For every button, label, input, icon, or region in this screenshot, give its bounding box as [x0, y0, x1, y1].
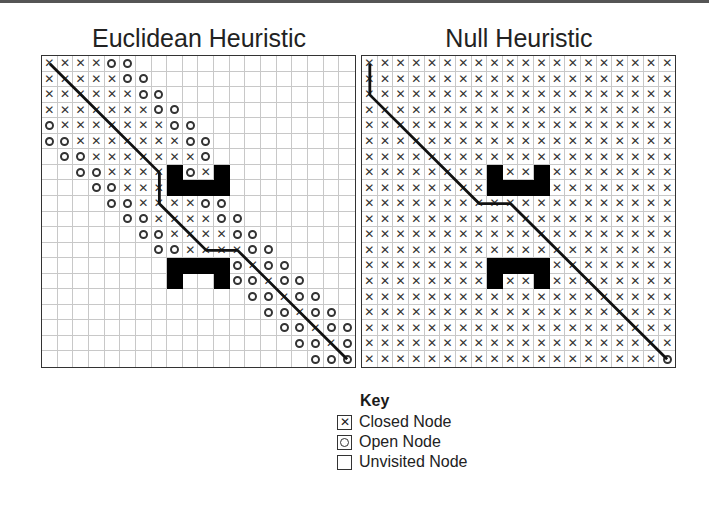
unvisited-node	[214, 351, 230, 367]
open-icon	[295, 339, 304, 348]
unvisited-node	[339, 165, 355, 181]
closed-node: ✕	[644, 289, 660, 305]
unvisited-node	[136, 351, 152, 367]
closed-icon: ✕	[583, 182, 593, 194]
closed-icon: ✕	[568, 322, 578, 334]
closed-icon: ✕	[427, 119, 437, 131]
unvisited-node	[167, 320, 183, 336]
closed-icon: ✕	[599, 182, 609, 194]
unvisited-node	[198, 320, 214, 336]
closed-icon: ✕	[662, 151, 672, 163]
closed-icon: ✕	[380, 306, 390, 318]
closed-icon: ✕	[396, 337, 406, 349]
open-node	[42, 134, 58, 150]
closed-icon: ✕	[552, 135, 562, 147]
obstacle-cell	[167, 180, 183, 196]
closed-node: ✕	[581, 258, 597, 274]
closed-icon: ✕	[505, 151, 515, 163]
closed-node: ✕	[550, 180, 566, 196]
closed-node: ✕	[472, 227, 488, 243]
open-icon	[280, 308, 289, 317]
closed-icon: ✕	[630, 151, 640, 163]
open-icon	[123, 199, 132, 208]
closed-node: ✕	[425, 351, 441, 367]
unvisited-node	[214, 56, 230, 72]
open-icon	[76, 168, 85, 177]
closed-icon: ✕	[458, 259, 468, 271]
closed-icon: ✕	[380, 119, 390, 131]
closed-node: ✕	[409, 180, 425, 196]
closed-icon: ✕	[201, 166, 211, 178]
closed-icon: ✕	[411, 275, 421, 287]
closed-node: ✕	[565, 165, 581, 181]
closed-icon: ✕	[552, 151, 562, 163]
closed-icon: ✕	[263, 275, 273, 287]
closed-icon: ✕	[521, 337, 531, 349]
unvisited-node	[73, 180, 89, 196]
closed-node: ✕	[440, 212, 456, 228]
closed-node: ✕	[503, 227, 519, 243]
closed-icon: ✕	[91, 73, 101, 85]
unvisited-node	[42, 336, 58, 352]
unvisited-node	[136, 274, 152, 290]
closed-icon: ✕	[568, 166, 578, 178]
unvisited-node	[58, 196, 74, 212]
closed-icon: ✕	[583, 322, 593, 334]
closed-node: ✕	[472, 103, 488, 119]
unvisited-node	[167, 87, 183, 103]
unvisited-node	[277, 243, 293, 259]
unvisited-node	[277, 351, 293, 367]
closed-node: ✕	[456, 243, 472, 259]
closed-node: ✕	[393, 180, 409, 196]
unvisited-node	[339, 72, 355, 88]
closed-icon: ✕	[662, 213, 672, 225]
closed-icon: ✕	[474, 353, 484, 365]
closed-icon: ✕	[443, 353, 453, 365]
closed-node: ✕	[425, 56, 441, 72]
closed-icon: ✕	[364, 291, 374, 303]
closed-node: ✕	[644, 320, 660, 336]
unvisited-node	[152, 289, 168, 305]
closed-icon: ✕	[427, 135, 437, 147]
closed-node-icon: ✕	[337, 415, 352, 430]
unvisited-node	[214, 87, 230, 103]
open-icon	[343, 339, 352, 348]
closed-node: ✕	[565, 289, 581, 305]
closed-node: ✕	[105, 118, 121, 134]
closed-icon: ✕	[411, 213, 421, 225]
closed-icon: ✕	[474, 151, 484, 163]
open-icon	[154, 245, 163, 254]
closed-node: ✕	[393, 305, 409, 321]
unvisited-node	[230, 305, 246, 321]
closed-icon: ✕	[630, 135, 640, 147]
closed-icon: ✕	[107, 166, 117, 178]
closed-node: ✕	[152, 196, 168, 212]
open-icon	[107, 59, 116, 68]
unvisited-node	[339, 118, 355, 134]
closed-icon: ✕	[536, 244, 546, 256]
closed-icon: ✕	[599, 119, 609, 131]
open-node	[152, 243, 168, 259]
closed-node: ✕	[550, 196, 566, 212]
unvisited-node	[339, 243, 355, 259]
open-icon	[280, 261, 289, 270]
open-node	[136, 212, 152, 228]
unvisited-node	[324, 165, 340, 181]
unvisited-node	[42, 149, 58, 165]
closed-icon: ✕	[630, 259, 640, 271]
closed-icon: ✕	[411, 353, 421, 365]
closed-node: ✕	[503, 72, 519, 88]
closed-node: ✕	[362, 258, 378, 274]
closed-node: ✕	[518, 227, 534, 243]
closed-icon: ✕	[615, 228, 625, 240]
open-node	[245, 243, 261, 259]
closed-node: ✕	[120, 180, 136, 196]
unvisited-node	[308, 258, 324, 274]
unvisited-node	[42, 180, 58, 196]
obstacle-cell	[167, 274, 183, 290]
closed-icon: ✕	[646, 197, 656, 209]
closed-icon: ✕	[44, 57, 54, 69]
closed-node: ✕	[120, 118, 136, 134]
closed-node: ✕	[472, 289, 488, 305]
unvisited-node	[105, 289, 121, 305]
